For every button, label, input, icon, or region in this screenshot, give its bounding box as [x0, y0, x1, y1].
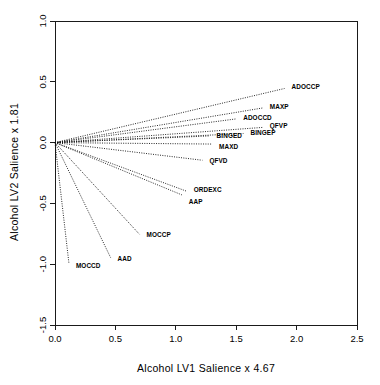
vector-ray [55, 143, 140, 235]
x-tick-label: 1.0 [169, 333, 182, 344]
point-label: BINGEP [250, 129, 276, 136]
y-tick-label: 0.5 [37, 75, 48, 88]
point-label: MOCCD [76, 262, 101, 269]
y-axis-title: Alcohol LV2 Salience x 1.81 [8, 103, 20, 241]
y-tick-label: 0.0 [37, 136, 48, 149]
x-tick-label: 1.5 [230, 333, 243, 344]
point-label: MAXD [219, 143, 239, 150]
y-tick-label: 1.0 [37, 14, 48, 27]
point-label: AAP [189, 198, 203, 205]
x-tick-label: 0.0 [48, 333, 61, 344]
y-tick-label: -1.5 [37, 317, 48, 333]
y-tick-label: -0.5 [37, 195, 48, 211]
data-point-labels: ADOCCPMAXPADOCCDQFVPBINGEPBINGEDMAXDQFVD… [76, 83, 321, 268]
plot-frame [55, 21, 357, 325]
vector-loading-plot: 0.00.51.01.52.02.5 1.00.50.0-0.5-1.0-1.5… [0, 0, 380, 385]
x-tick-label: 2.0 [290, 333, 303, 344]
point-label: MAXP [270, 103, 290, 110]
point-label: ADOCCD [243, 114, 272, 121]
x-tick-label: 2.5 [350, 333, 363, 344]
vector-ray [55, 143, 69, 263]
point-label: BINGED [217, 132, 243, 139]
x-axis-ticks [55, 325, 357, 330]
vector-ray [55, 143, 212, 144]
point-label: ORDEXC [194, 186, 222, 193]
point-label: ADOCCP [292, 83, 321, 90]
point-label: QFVD [209, 157, 227, 165]
x-axis-title: Alcohol LV1 Salience x 4.67 [137, 362, 275, 374]
vector-ray [55, 119, 236, 143]
y-axis-ticks [50, 21, 55, 325]
point-label: MOCCP [147, 231, 172, 238]
x-tick-label: 0.5 [109, 333, 122, 344]
y-tick-label: -1.0 [37, 256, 48, 272]
plot-canvas: 0.00.51.01.52.02.5 1.00.50.0-0.5-1.0-1.5… [0, 0, 380, 385]
x-axis-tick-labels: 0.00.51.01.52.02.5 [48, 333, 363, 344]
y-axis-tick-labels: 1.00.50.0-0.5-1.0-1.5 [37, 14, 48, 333]
vector-ray [55, 143, 187, 192]
point-label: AAD [118, 255, 132, 262]
